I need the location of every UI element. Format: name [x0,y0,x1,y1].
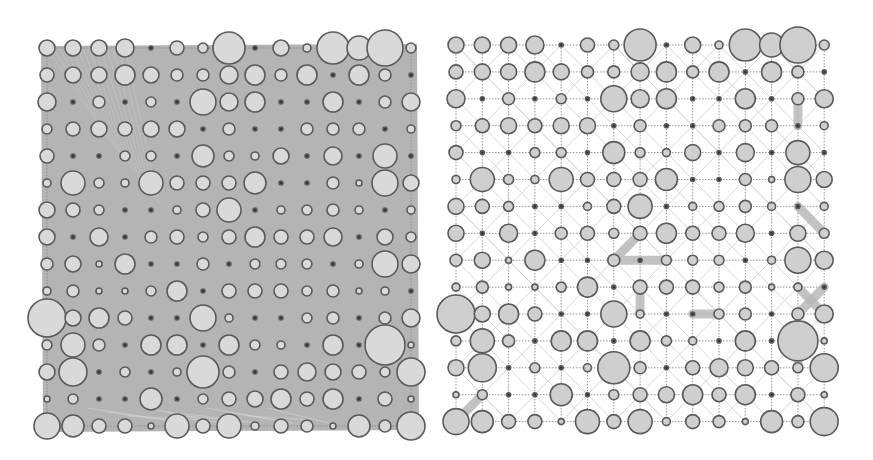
graph-node [819,228,829,238]
graph-node [41,258,53,270]
graph-node [500,224,518,242]
graph-node [507,151,511,155]
graph-node [794,283,802,291]
graph-node [766,120,778,132]
graph-node [607,199,621,213]
graph-node [556,282,566,292]
graph-node [586,393,590,397]
graph-node [323,389,343,409]
graph-node [739,174,751,186]
graph-node [274,284,288,298]
graph-node [373,144,397,168]
graph-node [447,90,465,108]
graph-node [662,418,670,426]
graph-node [383,208,387,212]
graph-node [770,231,774,235]
graph-node [687,66,699,78]
graph-node [820,122,828,130]
graph-node [279,127,283,131]
graph-node [277,206,285,214]
graph-node [662,149,670,157]
graph-node [357,316,361,320]
graph-node [149,46,153,50]
graph-node [792,416,804,428]
graph-node [531,176,539,184]
graph-node [223,366,235,378]
graph-node [65,40,81,56]
graph-node [578,277,598,297]
graph-node [474,306,490,322]
graph-node [305,181,309,185]
graph-node [379,420,391,432]
graph-node [175,316,179,320]
graph-node [353,123,365,135]
graph-node [146,286,156,296]
graph-node [480,97,484,101]
graph-node [355,206,363,214]
graph-node [793,363,803,373]
graph-node [149,208,153,212]
graph-node [248,284,262,298]
graph-node [198,43,208,53]
graph-node [664,204,668,208]
graph-node [656,62,676,82]
graph-node [276,259,286,269]
graph-node [225,314,233,322]
graph-node [661,336,671,346]
graph-node [196,203,210,217]
graph-node [452,176,460,184]
graph-node [331,262,335,266]
graph-node [167,335,187,355]
graph-node [196,419,210,433]
graph-node [302,259,312,269]
graph-node [39,229,55,245]
graph-node [533,231,537,235]
graph-node [634,362,646,374]
graph-node [712,388,726,402]
graph-node [253,316,257,320]
graph-node [66,203,80,217]
graph-node [324,228,342,246]
graph-node [171,69,183,81]
graph-node [302,313,312,323]
graph-node [65,256,81,272]
graph-node [685,145,701,161]
graph-node [38,93,56,111]
graph-node [686,361,700,375]
graph-node [470,168,494,192]
graph-node [66,122,80,136]
graph-node [357,100,361,104]
graph-node [146,97,156,107]
graph-node [821,392,827,398]
graph-node [245,227,265,247]
graph-node [379,312,391,324]
graph-node [822,285,826,289]
graph-node [470,329,494,353]
graph-node [148,423,154,429]
graph-node [584,202,592,210]
graph-node [526,36,544,54]
graph-node [42,124,52,134]
graph-node [528,307,542,321]
graph-node [664,312,668,316]
graph-node [357,154,361,158]
graph-node [576,410,600,434]
graph-node [223,123,235,135]
graph-node [739,308,751,320]
graph-node [559,43,563,47]
graph-node [115,254,135,274]
graph-node [317,32,349,64]
graph-node [608,66,620,78]
graph-node [810,354,838,382]
graph-node [170,41,184,55]
graph-node [357,343,361,347]
graph-node [770,339,774,343]
graph-node [689,337,697,345]
graph-node [327,177,339,189]
graph-node [689,202,697,210]
graph-node [300,392,314,406]
graph-node [717,339,721,343]
graph-node [94,178,104,188]
graph-node [578,331,598,351]
graph-node [367,30,403,66]
